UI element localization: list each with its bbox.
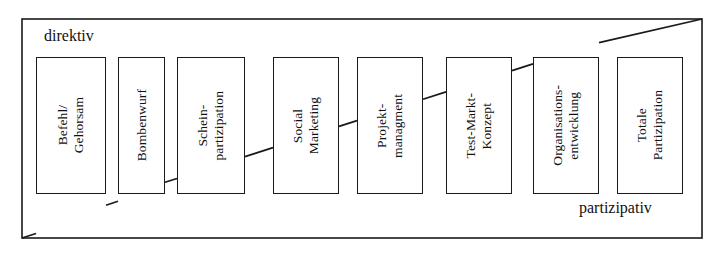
node-label: Test-Markt- Konzept [463,93,494,158]
node-box-projekt-managment[interactable]: Projekt- managment [357,57,423,194]
node-label: Projekt- managment [374,94,405,158]
node-box-befehl-gehorsam[interactable]: Befehl/ Gehorsam [36,57,106,194]
node-label: Bombenwurf [134,89,150,161]
node-box-totale-partizipation[interactable]: Totale Partizipation [617,57,683,194]
node-box-social-marketing[interactable]: Social Marketing [273,57,339,194]
node-label: Schein- partizipation [195,91,226,161]
diagram-canvas: direktiv partizipativ Befehl/ Gehorsam B… [0,0,724,255]
node-label: Organisations- entwicklung [550,85,581,166]
node-label: Social Marketing [290,97,321,154]
pole-label-directiv: direktiv [44,27,94,45]
node-label: Befehl/ Gehorsam [55,97,86,153]
pole-label-partizipativ: partizipativ [579,199,652,217]
node-label: Totale Partizipation [634,90,665,160]
node-box-bombenwurf[interactable]: Bombenwurf [118,57,165,194]
node-box-schein-partizipation[interactable]: Schein- partizipation [177,57,245,194]
node-box-organisations-entwicklung[interactable]: Organisations- entwicklung [533,57,599,194]
node-box-test-markt-konzept[interactable]: Test-Markt- Konzept [446,57,512,194]
